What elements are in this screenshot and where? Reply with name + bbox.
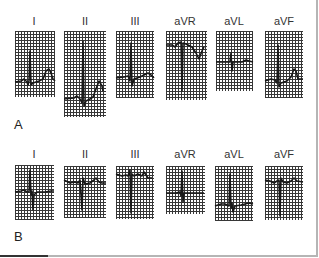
lead-label-b-avr: aVR	[163, 148, 207, 160]
lead-label-b-avf: aVF	[262, 148, 306, 160]
ecg-trace-b-iii	[116, 166, 154, 219]
ecg-trace-b-avf	[265, 166, 303, 220]
lead-label-a-avl: aVL	[212, 15, 256, 27]
lead-label-a-avf: aVF	[262, 15, 306, 27]
lead-label-b-i: I	[12, 148, 56, 160]
ecg-trace-a-avf	[265, 31, 303, 98]
ecg-panel-b-i	[15, 165, 54, 220]
ecg-panel-b-iii	[116, 166, 154, 219]
ecg-trace-a-avr	[166, 31, 207, 100]
ecg-trace-b-avr	[166, 166, 205, 214]
lead-label-b-iii: III	[113, 148, 157, 160]
lead-label-b-avl: aVL	[212, 148, 256, 160]
ecg-panel-a-avf	[265, 31, 303, 98]
ecg-trace-a-i	[15, 31, 55, 97]
ecg-trace-b-i	[15, 165, 54, 220]
ecg-trace-a-ii	[64, 31, 106, 117]
ecg-panel-b-ii	[64, 166, 106, 218]
lead-label-a-i: I	[12, 15, 56, 27]
row-label-b: B	[14, 229, 23, 244]
ecg-panel-a-avr	[166, 31, 207, 100]
ecg-trace-a-avl	[216, 31, 253, 91]
ecg-trace-a-iii	[116, 31, 154, 98]
ecg-panel-b-avl	[215, 166, 253, 221]
ecg-panel-a-i	[15, 31, 55, 97]
lead-label-a-avr: aVR	[163, 15, 207, 27]
row-label-a: A	[14, 117, 23, 132]
ecg-trace-b-ii	[64, 166, 106, 218]
ecg-panel-a-iii	[116, 31, 154, 98]
lead-label-a-iii: III	[113, 15, 157, 27]
lead-label-a-ii: II	[63, 15, 107, 27]
ecg-panel-a-avl	[216, 31, 253, 91]
ecg-panel-b-avr	[166, 166, 205, 214]
ecg-panel-b-avf	[265, 166, 303, 220]
ecg-panel-a-ii	[64, 31, 106, 117]
lead-label-b-ii: II	[63, 148, 107, 160]
ecg-trace-b-avl	[215, 166, 253, 221]
bottom-edge-accent	[0, 255, 48, 257]
